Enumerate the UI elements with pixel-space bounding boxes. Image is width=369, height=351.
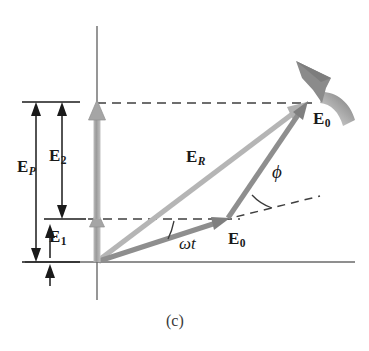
vector-e-r-shaft xyxy=(99,112,295,260)
label-e-r-base: E xyxy=(186,147,197,166)
phasor-figure: EP E2 E1 ER E0 E0 ωt ϕ (c) xyxy=(0,0,369,351)
label-e-0-lower-sub: 0 xyxy=(239,237,245,249)
vector-e-2-shaft xyxy=(94,117,101,219)
phasor-diagram-svg xyxy=(0,0,369,351)
dimension-e-p-arrow-up xyxy=(31,102,41,116)
label-e-r-sub: R xyxy=(197,155,205,167)
dimension-e-2-arrow-down xyxy=(57,205,67,219)
label-e-0-lower: E0 xyxy=(228,230,246,250)
label-e-0-upper: E0 xyxy=(313,110,331,130)
label-omega-t: ωt xyxy=(179,235,196,252)
label-e-r: ER xyxy=(186,148,206,168)
label-e-1: E1 xyxy=(49,228,67,248)
label-e-1-sub: 1 xyxy=(60,235,66,247)
vector-e-2-vertical xyxy=(89,100,106,219)
label-e-0-upper-base: E xyxy=(313,109,324,128)
label-e-2-sub: 2 xyxy=(60,154,66,166)
label-phi: ϕ xyxy=(272,162,282,181)
vector-e-0-lower-shaft xyxy=(99,223,216,261)
vector-e-0-upper xyxy=(228,101,308,218)
figure-caption: (c) xyxy=(166,313,184,329)
label-e-p-base: E xyxy=(17,157,28,176)
label-e-2-base: E xyxy=(49,146,60,165)
label-e-p: EP xyxy=(17,158,36,178)
vector-e-0-upper-shaft xyxy=(228,115,298,218)
dimension-e-2-arrow-up xyxy=(57,102,67,116)
vector-e-1-shaft xyxy=(94,224,101,262)
dimension-e-p-arrow-down xyxy=(31,248,41,262)
label-e-2: E2 xyxy=(49,147,67,167)
phi-angle-arc xyxy=(252,195,272,208)
vector-e-0-lower xyxy=(99,217,230,261)
dimension-e-1-lower-arrow-up xyxy=(45,264,55,278)
label-e-p-sub: P xyxy=(28,165,36,177)
label-e-1-base: E xyxy=(49,227,60,246)
label-e-0-lower-base: E xyxy=(228,229,239,248)
label-e-0-upper-sub: 0 xyxy=(324,117,330,129)
